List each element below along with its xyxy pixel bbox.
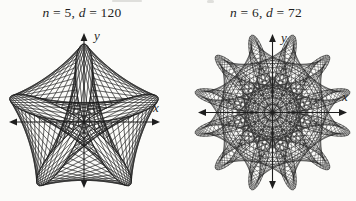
y-axis-label: y [281,31,287,44]
figure-caption-left: n = 5, d = 120 [38,5,126,21]
x-axis-label: x [342,90,348,103]
caption-value-n: = 6, [237,5,266,20]
x-axis-label: x [153,101,159,114]
maurer-rose-figure-1 [195,34,350,190]
caption-value-d: = 72 [273,5,302,20]
textbook-figure-pair: n = 5, d = 120 n = 6, d = 72 x y x y [0,0,356,201]
rose-plots-canvas [0,0,356,201]
figure-caption-right: n = 6, d = 72 [224,5,308,21]
caption-variable-d: d [266,5,273,20]
caption-value-n: = 5, [50,5,79,20]
maurer-rose-figure-0 [9,33,160,188]
caption-variable-n: n [43,5,50,20]
caption-variable-n: n [230,5,237,20]
y-axis-label: y [94,29,100,42]
caption-variable-d: d [79,5,86,20]
caption-value-d: = 120 [86,5,122,20]
